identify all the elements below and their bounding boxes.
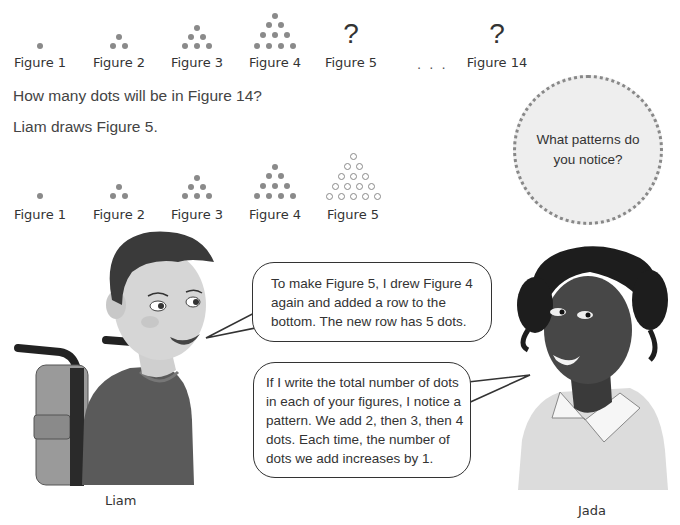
jada-name-label: Jada <box>578 503 606 518</box>
jada-illustration <box>517 246 668 490</box>
liam-speech-text: To make Figure 5, I drew Figure 4 again … <box>271 276 473 329</box>
jada-speech-bubble: If I write the total number of dots in e… <box>253 362 471 478</box>
liam-name-label: Liam <box>105 493 136 508</box>
liam-speech-bubble: To make Figure 5, I drew Figure 4 again … <box>252 262 492 342</box>
liam-illustration <box>18 232 214 486</box>
jada-speech-text: If I write the total number of dots in e… <box>266 375 463 466</box>
